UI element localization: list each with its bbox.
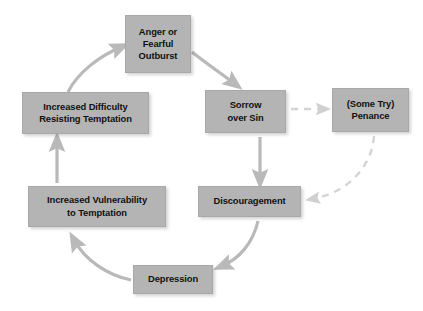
node-some-try-penance[interactable]: (Some Try) Penance [332, 88, 409, 132]
node-sorrow-over-sin[interactable]: Sorrow over Sin [205, 90, 286, 133]
edge-penance-to-discouragement [312, 136, 374, 199]
node-depression[interactable]: Depression [133, 265, 213, 294]
node-increased-difficulty-resisting-temptation[interactable]: Increased Difficulty Resisting Temptatio… [22, 92, 149, 134]
edge-anger-to-sorrow [192, 52, 235, 84]
node-discouragement[interactable]: Discouragement [198, 186, 301, 217]
edge-difficulty-to-anger [68, 47, 121, 92]
edge-depression-to-vulnerability [74, 240, 131, 280]
edge-discouragement-to-depression [222, 221, 258, 266]
node-anger-or-fearful-outburst[interactable]: Anger or Fearful Outburst [125, 15, 191, 73]
node-increased-vulnerability-to-temptation[interactable]: Increased Vulnerability to Temptation [28, 186, 166, 227]
diagram-canvas: Anger or Fearful Outburst Sorrow over Si… [0, 0, 423, 311]
